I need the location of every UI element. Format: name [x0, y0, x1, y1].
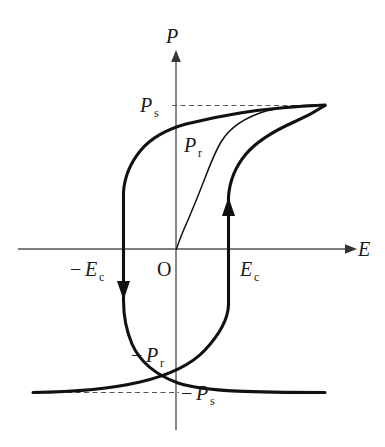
neg-ec-subscript: c: [99, 270, 104, 284]
ec-subscript: c: [254, 270, 259, 284]
neg-ps-symbol: P: [195, 382, 208, 404]
neg-ec-minus: −: [70, 258, 81, 280]
neg-pr-symbol: P: [145, 344, 158, 366]
pr-symbol: P: [183, 134, 196, 156]
neg-ec-symbol: E: [84, 258, 97, 280]
ec-symbol: E: [239, 258, 252, 280]
ps-symbol: P: [139, 94, 152, 116]
neg-pr-subscript: r: [160, 356, 164, 370]
ps-subscript: s: [154, 106, 159, 120]
neg-ps-minus: −: [181, 382, 192, 404]
hysteresis-plot-svg: P E O P s P r − P r − P s E c: [0, 0, 385, 447]
neg-pr-minus: −: [131, 344, 142, 366]
y-axis-label: P: [165, 25, 178, 47]
origin-label: O: [157, 258, 171, 280]
neg-ps-subscript: s: [210, 394, 215, 408]
plot-background: [0, 0, 385, 447]
x-axis-label: E: [357, 238, 370, 260]
hysteresis-figure: P E O P s P r − P r − P s E c: [0, 0, 385, 447]
pr-subscript: r: [198, 146, 202, 160]
